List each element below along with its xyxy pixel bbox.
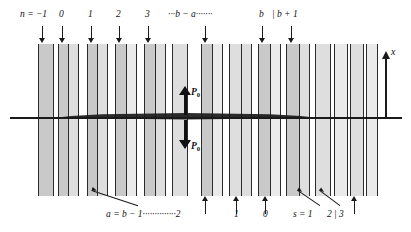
top-label-b-minus-a: ···b − a······· [168,10,212,20]
top-arrowhead-down-icon [88,38,94,43]
top-arrowhead-down-icon [116,38,122,43]
bottom-arrow-shaft [265,201,266,214]
top-arrowhead-down-icon [259,38,265,43]
top-arrowhead-down-icon [39,38,45,43]
x-axis-shaft [385,58,387,118]
bottom-arrow-shaft [354,201,355,214]
top-label-three: 3 [145,10,150,20]
layer-stripe [315,44,331,196]
top-arrowhead-down-icon [288,38,294,43]
layer-stripe [366,44,378,196]
top-label-one: 1 [88,10,93,20]
layer-stripe [334,44,348,196]
top-label-zero: 0 [59,10,64,20]
bottom-label-two: 2 [327,210,332,220]
bottom-arrow-shaft [205,201,206,214]
bottom-arrowhead-up-icon [262,196,268,201]
bottom-label-a-eq-b-minus-1: a = b − 1··············2 [106,210,181,220]
p0-down-arrowhead-icon [179,140,191,149]
bottom-label-s-eq-1: s = 1 [293,210,313,220]
top-label-two: 2 [116,10,121,20]
p0-up-arrow-shaft [184,94,187,115]
p0-down-label: P0 [191,142,200,152]
bottom-arrowhead-up-icon [233,196,239,201]
top-arrowhead-down-icon [59,38,65,43]
bottom-arrow-shaft [236,201,237,214]
layer-stripe [350,44,364,196]
top-arrowhead-down-icon [202,38,208,43]
figure-container: n = −10123···b − a·······b| b + 1 a = b … [0,0,411,232]
p0-down-arrow-shaft [184,120,187,141]
p0-up-label: P0 [191,88,200,98]
bottom-arrowhead-up-icon [351,196,357,201]
x-axis-label: x [391,46,395,57]
top-label-n-eq-minus1: n = −1 [20,10,47,20]
bottom-label-three: | 3 [334,210,344,220]
bottom-arrowhead-up-icon [202,196,208,201]
top-label-b: b [259,10,264,20]
top-label-b-plus-1: | b + 1 [272,10,298,20]
top-arrowhead-down-icon [145,38,151,43]
layer-stripe [38,44,54,196]
